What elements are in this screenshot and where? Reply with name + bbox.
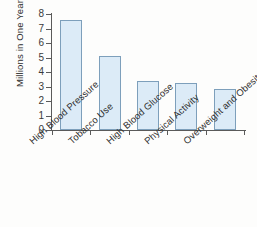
y-axis-tick-label: 3 [30,82,44,92]
y-axis-tick-label: 8 [30,9,44,19]
y-axis-tick [46,14,51,15]
y-axis-tick [46,72,51,73]
y-axis-tick-label: 4 [30,67,44,77]
x-axis-tick [90,131,91,135]
x-axis-tick [167,131,168,135]
y-axis-tick [46,101,51,102]
bar-chart-figure: Millions in One Year 012345678 High Bloo… [0,0,257,227]
y-axis-tick-label: 7 [30,24,44,34]
y-axis-tick-label: 1 [30,111,44,121]
y-axis-tick [46,58,51,59]
y-axis-tick-label: 2 [30,96,44,106]
x-axis-tick [129,131,130,135]
x-axis-tick [52,131,53,135]
y-axis-tick [46,29,51,30]
y-axis-tick [46,87,51,88]
y-axis-tick-label: 6 [30,38,44,48]
y-axis-tick [46,43,51,44]
x-axis-tick [206,131,207,135]
y-axis-tick-label: 5 [30,53,44,63]
y-axis-title: Millions in One Year [14,0,25,99]
x-axis-tick [244,131,245,135]
